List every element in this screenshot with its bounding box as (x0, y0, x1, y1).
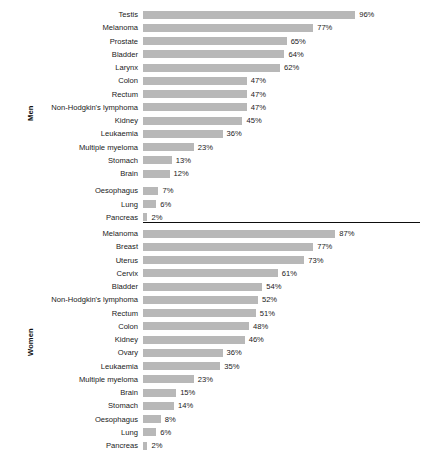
bar-row: Cervix61% (0, 268, 423, 279)
bar-category-label: Oesophagus (0, 185, 138, 196)
bar-track (143, 296, 258, 304)
bar-category-label: Bladder (0, 281, 138, 292)
bar-track (143, 269, 278, 277)
bar-row: Larynx62% (0, 62, 423, 73)
bar-row: Ovary36% (0, 347, 423, 358)
bar-track (143, 187, 158, 195)
bar-segment (143, 322, 249, 330)
bar-segment (143, 283, 262, 291)
bar-segment (143, 103, 247, 111)
bar-category-label: Leukaemia (0, 128, 138, 139)
bar-segment (143, 442, 147, 450)
bar-track (143, 375, 194, 383)
bar-row: Bladder54% (0, 281, 423, 292)
bar-row: Pancreas2% (0, 440, 423, 451)
bar-segment (143, 11, 355, 19)
bar-category-label: Kidney (0, 334, 138, 345)
bar-track (143, 130, 223, 138)
bar-row: Oesophagus7% (0, 185, 423, 196)
bar-category-label: Leukaemia (0, 361, 138, 372)
bar-row: Brain15% (0, 387, 423, 398)
bar-value-label: 13% (176, 155, 191, 166)
bar-category-label: Pancreas (0, 212, 138, 223)
bar-value-label: 2% (151, 440, 162, 451)
bar-row: Oesophagus8% (0, 414, 423, 425)
bar-category-label: Non-Hodgkin's lymphoma (0, 294, 138, 305)
bar-segment (143, 130, 223, 138)
bar-category-label: Cervix (0, 268, 138, 279)
bar-segment (143, 50, 284, 58)
bar-row: Kidney45% (0, 115, 423, 126)
bar-value-label: 52% (262, 294, 277, 305)
bar-value-label: 87% (339, 228, 354, 239)
bar-row: Leukaemia35% (0, 361, 423, 372)
bar-track (143, 103, 247, 111)
bar-track (143, 349, 223, 357)
bar-segment (143, 256, 304, 264)
bar-segment (143, 213, 147, 221)
bar-track (143, 322, 249, 330)
bar-row: Brain12% (0, 168, 423, 179)
bar-value-label: 96% (359, 9, 374, 20)
bar-category-label: Bladder (0, 49, 138, 60)
bar-row: Rectum47% (0, 89, 423, 100)
bar-value-label: 7% (162, 185, 173, 196)
bar-category-label: Brain (0, 387, 138, 398)
bar-segment (143, 90, 247, 98)
bar-track (143, 428, 156, 436)
bar-segment (143, 156, 172, 164)
bar-value-label: 47% (251, 102, 266, 113)
bar-row: Melanoma87% (0, 228, 423, 239)
bar-value-label: 8% (165, 414, 176, 425)
bar-track (143, 170, 170, 178)
bar-row: Non-Hodgkin's lymphoma47% (0, 102, 423, 113)
bar-track (143, 402, 174, 410)
bar-segment (143, 24, 313, 32)
bar-track (143, 283, 262, 291)
bar-category-label: Rectum (0, 89, 138, 100)
bar-value-label: 36% (227, 347, 242, 358)
bar-segment (143, 375, 194, 383)
bar-category-label: Testis (0, 9, 138, 20)
bar-row: Prostate65% (0, 36, 423, 47)
bar-value-label: 47% (251, 89, 266, 100)
bar-track (143, 362, 220, 370)
panel-divider (143, 222, 420, 223)
bar-category-label: Stomach (0, 155, 138, 166)
bar-category-label: Multiple myeloma (0, 142, 138, 153)
bar-row: Non-Hodgkin's lymphoma52% (0, 294, 423, 305)
bar-segment (143, 362, 220, 370)
bar-track (143, 11, 355, 19)
bar-segment (143, 389, 176, 397)
bar-track (143, 415, 161, 423)
bar-row: Bladder64% (0, 49, 423, 60)
bar-row: Colon48% (0, 321, 423, 332)
bar-category-label: Prostate (0, 36, 138, 47)
bar-row: Stomach13% (0, 155, 423, 166)
bar-value-label: 23% (198, 374, 213, 385)
bar-row: Multiple myeloma23% (0, 374, 423, 385)
bar-track (143, 143, 194, 151)
bar-track (143, 37, 287, 45)
bar-category-label: Multiple myeloma (0, 374, 138, 385)
bar-row: Lung6% (0, 199, 423, 210)
bar-track (143, 50, 284, 58)
bar-row: Multiple myeloma23% (0, 142, 423, 153)
bar-value-label: 48% (253, 321, 268, 332)
bar-segment (143, 243, 313, 251)
bar-value-label: 6% (160, 427, 171, 438)
bar-segment (143, 77, 247, 85)
bar-category-label: Melanoma (0, 22, 138, 33)
bar-value-label: 47% (251, 75, 266, 86)
bar-row: Colon47% (0, 75, 423, 86)
bar-category-label: Oesophagus (0, 414, 138, 425)
bar-segment (143, 117, 242, 125)
bar-track (143, 24, 313, 32)
bar-segment (143, 309, 256, 317)
bar-segment (143, 349, 223, 357)
bar-segment (143, 402, 174, 410)
bar-row: Testis96% (0, 9, 423, 20)
bar-category-label: Uterus (0, 255, 138, 266)
bar-value-label: 36% (227, 128, 242, 139)
bar-category-label: Rectum (0, 308, 138, 319)
